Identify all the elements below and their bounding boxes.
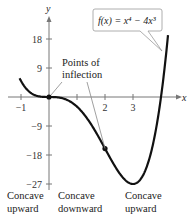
x-tick-label: 2	[103, 102, 108, 113]
concave-upward-left-line1: Concave	[7, 190, 44, 201]
points-of-inflection-label-line1: Points of	[62, 57, 100, 68]
y-axis-arrow	[47, 16, 52, 22]
x-axis-label: x	[181, 92, 187, 103]
y-tick-label: −9	[31, 121, 42, 132]
inflection-point	[46, 94, 51, 99]
function-label-box: f(x) = x⁴ − 4x³	[93, 9, 162, 51]
concave-upward-left-line2: upward	[7, 203, 39, 214]
concave-downward-line1: Concave	[58, 190, 95, 201]
function-label: f(x) = x⁴ − 4x³	[98, 15, 157, 27]
chart: −123189−9−18−27 y x Points of inflection…	[0, 0, 188, 219]
y-tick-label: −27	[26, 179, 42, 190]
y-axis-label: y	[45, 3, 51, 14]
callouts	[51, 82, 105, 149]
y-tick-label: 18	[32, 34, 42, 45]
x-tick-label: −1	[16, 102, 27, 113]
callout-line-inflection-2	[87, 82, 105, 149]
callout-line-inflection-1	[51, 82, 62, 95]
concave-downward-line2: downward	[58, 203, 103, 214]
concave-upward-right-line1: Concave	[125, 190, 162, 201]
y-tick-label: 9	[37, 63, 42, 74]
y-tick-label: −18	[26, 150, 42, 161]
concave-upward-right-line2: upward	[125, 203, 157, 214]
points-of-inflection-label-line2: inflection	[62, 69, 103, 80]
x-tick-label: 3	[131, 102, 136, 113]
